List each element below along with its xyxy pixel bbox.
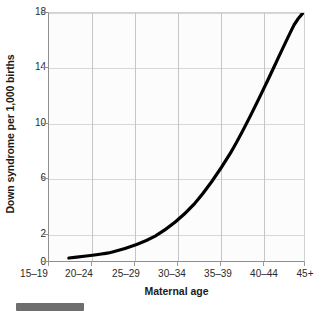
y-axis-title-text: Down syndrome per 1,000 births	[4, 54, 16, 213]
caption-bar	[16, 303, 84, 311]
curve-path	[69, 13, 303, 258]
x-tick-mark-3	[134, 262, 135, 266]
x-tick-label-30-34: 30–34	[158, 268, 186, 280]
plot-area	[48, 12, 305, 262]
x-tick-label-15-19: 15–19	[20, 268, 48, 280]
x-tick-label-25-29: 25–29	[112, 268, 140, 280]
x-tick-label-20-24: 20–24	[65, 268, 93, 280]
x-axis-title: Maternal age	[48, 285, 305, 297]
y-axis-title: Down syndrome per 1,000 births	[0, 0, 20, 268]
chart-figure: Down syndrome per 1,000 births 18 14 10 …	[0, 0, 323, 311]
x-tick-mark-2	[91, 262, 92, 266]
vgrid-6	[304, 13, 305, 261]
x-tick-mark-7	[304, 262, 305, 266]
x-tick-label-40-44: 40–44	[250, 268, 278, 280]
x-tick-mark-5	[220, 262, 221, 266]
x-tick-mark-1	[48, 262, 49, 266]
y-axis-tick-group: 18 14 10 6 2 0	[18, 0, 46, 311]
x-axis-tick-group: 15–19 20–24 25–29 30–34 35–39 40–44 45+	[0, 268, 323, 282]
x-tick-mark-4	[177, 262, 178, 266]
x-tick-label-35-39: 35–39	[204, 268, 232, 280]
data-curve	[49, 13, 304, 261]
y-tick-label-0: 0	[20, 257, 46, 267]
x-tick-label-45-plus: 45+	[297, 268, 314, 280]
x-tick-mark-6	[263, 262, 264, 266]
